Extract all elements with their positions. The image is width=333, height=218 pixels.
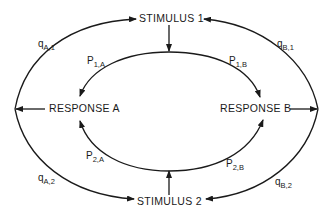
- label-qB1: qB,1: [277, 38, 294, 52]
- stimulus-1-label: STIMULUS 1: [139, 12, 204, 24]
- label-p2B: P2,B: [226, 158, 244, 172]
- edge-qA1: [15, 19, 136, 109]
- edge-qA2: [15, 109, 134, 199]
- label-p1B: P1,B: [229, 55, 247, 69]
- label-qB2: qB,2: [275, 176, 292, 190]
- stimulus-2-label: STIMULUS 2: [137, 195, 202, 207]
- edge-qB1: [204, 19, 318, 109]
- response-a-label: RESPONSE A: [49, 102, 120, 114]
- label-p2A: P2,A: [86, 150, 104, 164]
- response-b-label: RESPONSE B: [220, 102, 291, 114]
- edge-p2B: [169, 120, 263, 171]
- label-p1A: P1,A: [87, 55, 105, 69]
- label-qA1: qA,1: [38, 38, 55, 52]
- label-qA2: qA,2: [38, 172, 55, 186]
